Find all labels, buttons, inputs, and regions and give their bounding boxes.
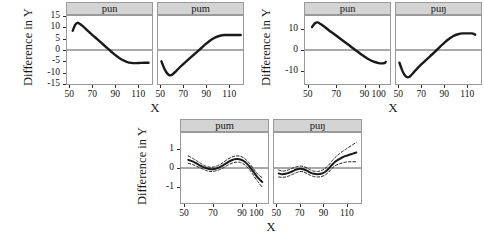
y-tick-label: 0	[169, 163, 174, 173]
y-tick-label: 0	[293, 45, 298, 55]
x-tick-mark	[365, 85, 366, 88]
y-tick-label: 0	[55, 45, 60, 55]
x-tick-mark	[276, 204, 277, 207]
panel-pung: puŋ 507090110	[273, 119, 362, 204]
x-tick-label: 90	[439, 89, 449, 99]
group-inner: Difference in Y 151050-5-10-15 pun 50709…	[8, 2, 244, 115]
x-tick-label: 100	[249, 208, 263, 218]
series-fitted	[312, 22, 386, 63]
x-tick-mark	[308, 85, 309, 88]
plot-canvas	[181, 133, 268, 203]
y-tick-label: -10	[285, 66, 298, 76]
y-tick-label: 5	[55, 34, 60, 44]
plot-canvas	[396, 16, 481, 84]
panel-pun: pun 507090100	[304, 2, 391, 85]
plot-area	[304, 15, 391, 85]
x-tick-label: 50	[394, 89, 404, 99]
x-tick-label: 50	[156, 89, 166, 99]
x-tick-label: 110	[131, 89, 145, 99]
series-fitted	[188, 159, 262, 182]
x-tick-mark	[184, 204, 185, 207]
plot-canvas	[305, 16, 390, 84]
x-tick-label: 90	[110, 89, 120, 99]
x-axis-title: X	[304, 100, 482, 116]
series-fitted	[279, 152, 357, 174]
series-fitted	[161, 35, 240, 75]
panel-strip-label: pum	[180, 119, 269, 132]
x-tick-label: 90	[201, 89, 211, 99]
x-tick-mark	[92, 85, 93, 88]
group-inner: Difference in Y 100-10 pun 507090100 puŋ…	[246, 2, 482, 115]
x-tick-label: 70	[417, 89, 427, 99]
y-tick-label: -1	[166, 182, 174, 192]
series-fitted	[73, 23, 149, 63]
panel-group-bottom: Difference in Y 10-1 pum 507090100 puŋ 5…	[122, 119, 362, 236]
x-axis-title: X	[66, 100, 244, 116]
x-tick-mark	[160, 85, 161, 88]
x-tick-mark	[256, 204, 257, 207]
x-tick-mark	[69, 85, 70, 88]
panel-group-top-left: Difference in Y 151050-5-10-15 pun 50709…	[8, 2, 244, 115]
group-inner: Difference in Y 10-1 pum 507090100 puŋ 5…	[122, 119, 362, 236]
y-tick-label: -10	[47, 68, 60, 78]
x-tick-mark	[467, 85, 468, 88]
y-tick-label: 10	[289, 24, 299, 34]
x-tick-label: 70	[208, 208, 218, 218]
x-tick-mark	[323, 204, 324, 207]
y-tick-labels: 151050-5-10-15	[8, 2, 64, 115]
x-tick-mark	[444, 85, 445, 88]
y-tick-labels: 10-1	[122, 119, 178, 236]
x-tick-mark	[138, 85, 139, 88]
y-tick-labels: 100-10	[246, 2, 302, 115]
y-tick-label: 15	[51, 11, 61, 21]
x-tick-label: 110	[340, 208, 354, 218]
panel-pung: puŋ 507090110	[395, 2, 482, 85]
x-tick-label: 90	[360, 89, 370, 99]
series-fitted	[399, 33, 475, 77]
plot-area	[273, 132, 362, 204]
x-tick-label: 90	[319, 208, 329, 218]
x-tick-label: 70	[295, 208, 305, 218]
y-tick-label: -15	[47, 79, 60, 89]
x-tick-label: 70	[331, 89, 341, 99]
x-tick-label: 50	[179, 208, 189, 218]
plot-area	[395, 15, 482, 85]
x-tick-label: 50	[272, 208, 282, 218]
panel-pum: pum 507090110	[157, 2, 244, 85]
x-tick-mark	[115, 85, 116, 88]
plot-area	[157, 15, 244, 85]
x-tick-mark	[213, 204, 214, 207]
plot-area	[180, 132, 269, 204]
x-tick-label: 70	[88, 89, 98, 99]
plot-canvas	[67, 16, 152, 84]
x-tick-label: 110	[222, 89, 236, 99]
x-axis-title: X	[180, 219, 362, 235]
panel-strip-label: pum	[157, 2, 244, 15]
panel-strip-label: pun	[304, 2, 391, 15]
panel-pum: pum 507090100	[180, 119, 269, 204]
plot-area	[66, 15, 153, 85]
panel-strip-label: puŋ	[273, 119, 362, 132]
plot-canvas	[274, 133, 361, 203]
x-tick-mark	[379, 85, 380, 88]
x-tick-mark	[421, 85, 422, 88]
x-tick-mark	[242, 204, 243, 207]
y-tick-label: -5	[52, 56, 60, 66]
panel-group-top-right: Difference in Y 100-10 pun 507090100 puŋ…	[246, 2, 482, 115]
x-tick-mark	[300, 204, 301, 207]
x-tick-mark	[336, 85, 337, 88]
x-tick-label: 110	[460, 89, 474, 99]
x-tick-mark	[347, 204, 348, 207]
series-upper-ci	[188, 156, 262, 178]
x-tick-mark	[398, 85, 399, 88]
x-tick-label: 90	[237, 208, 247, 218]
x-tick-mark	[206, 85, 207, 88]
panel-strip-label: puŋ	[395, 2, 482, 15]
x-tick-label: 50	[65, 89, 75, 99]
x-tick-label: 50	[303, 89, 313, 99]
x-tick-mark	[183, 85, 184, 88]
y-tick-label: 1	[169, 144, 174, 154]
panel-pun: pun 507090110	[66, 2, 153, 85]
panel-strip-label: pun	[66, 2, 153, 15]
y-tick-label: 10	[51, 22, 61, 32]
